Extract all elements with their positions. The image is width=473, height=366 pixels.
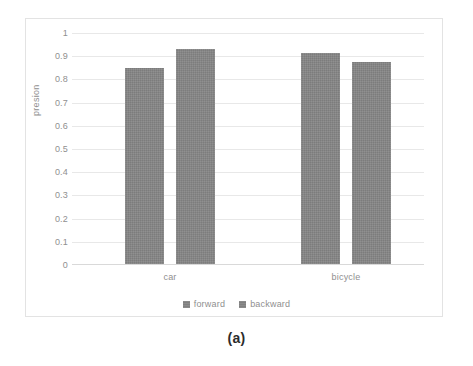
- y-tick-label: 0.1: [34, 238, 68, 247]
- legend-item-backward[interactable]: backward: [239, 299, 290, 309]
- bar-car-forward: [125, 68, 164, 264]
- y-tick-label: 0.9: [34, 52, 68, 61]
- bar-bicycle-backward: [352, 62, 391, 264]
- y-tick-label: 0.8: [34, 75, 68, 84]
- y-tick-label: 0.6: [34, 122, 68, 131]
- plot-area: [72, 33, 424, 265]
- legend-label-forward: forward: [194, 299, 225, 309]
- y-tick-label: 1: [34, 29, 68, 38]
- legend-label-backward: backward: [250, 299, 290, 309]
- y-axis-tick-labels: 1 0.9 0.8 0.7 0.6 0.5 0.4 0.3 0.2 0.1 0: [28, 33, 68, 265]
- y-tick-label: 0.2: [34, 215, 68, 224]
- bar-bicycle-forward: [301, 53, 340, 264]
- bar-car-backward: [176, 49, 215, 264]
- y-tick-label: 0: [34, 261, 68, 270]
- legend-item-forward[interactable]: forward: [183, 299, 225, 309]
- x-category-label-bicycle: bicycle: [311, 272, 381, 282]
- y-tick-label: 0.7: [34, 99, 68, 108]
- x-axis-line: [72, 264, 424, 265]
- y-tick-label: 0.5: [34, 145, 68, 154]
- chart-legend: forward backward: [0, 299, 473, 309]
- y-tick-label: 0.4: [34, 168, 68, 177]
- legend-swatch-icon: [239, 301, 246, 308]
- figure: presion 1 0.9 0.8 0.7 0.6 0.5 0.4 0.3 0.…: [0, 0, 473, 366]
- gridline: [72, 56, 424, 57]
- x-category-label-car: car: [135, 272, 205, 282]
- gridline: [72, 33, 424, 34]
- figure-caption: (a): [0, 330, 473, 346]
- legend-swatch-icon: [183, 301, 190, 308]
- y-tick-label: 0.3: [34, 191, 68, 200]
